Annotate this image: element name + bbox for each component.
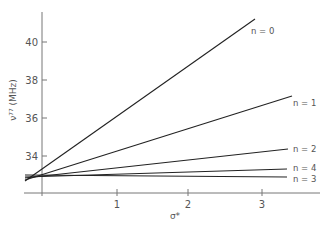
y-tick-label: 36 [25,113,38,124]
y-axis-title: ν⁷⁷ (MHz) [8,79,18,120]
series-label-n2: n = 2 [293,144,316,154]
series-label-n1: n = 1 [293,98,316,108]
line-n1 [25,96,292,180]
series-label-n0: n = 0 [251,26,274,36]
x-axis-title: σ* [170,211,181,221]
y-tick-label: 38 [25,75,38,86]
series-label-n4: n = 4 [293,163,316,173]
series-label-n3: n = 3 [293,174,316,184]
chart: 1 2 3 σ* 34 36 38 40 ν⁷⁷ (MHz) n = 0 n =… [0,0,330,226]
series-lines [25,19,292,181]
x-tick-label: 1 [114,199,120,210]
y-ticks [42,42,47,156]
y-tick-label: 40 [25,37,38,48]
x-tick-label: 2 [185,199,191,210]
y-tick-label: 34 [25,151,38,162]
x-tick-label: 3 [259,199,265,210]
